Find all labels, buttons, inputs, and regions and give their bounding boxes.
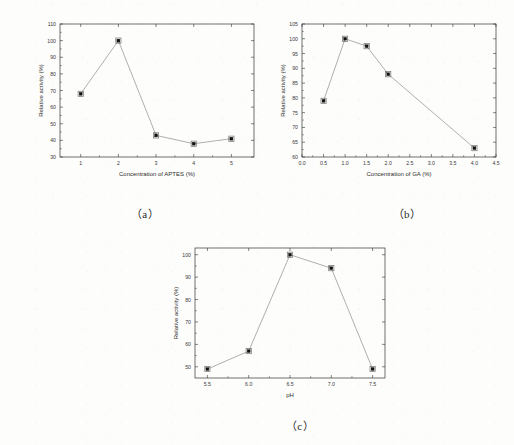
- data-point: [387, 73, 390, 76]
- y-axis-title: Relative activity (%): [280, 64, 286, 117]
- data-point: [330, 267, 333, 270]
- y-tick-label: 50: [185, 364, 191, 370]
- data-point: [230, 137, 233, 140]
- x-tick-label: 6.0: [245, 381, 252, 387]
- y-tick-label: 95: [292, 51, 298, 57]
- x-axis-title: Concentration of APTES (%): [119, 171, 195, 177]
- caption-c: （c）: [245, 417, 355, 433]
- y-tick-label: 80: [292, 95, 298, 101]
- plot-frame: [302, 24, 496, 157]
- y-tick-label: 100: [182, 252, 191, 258]
- y-tick-label: 60: [292, 154, 298, 160]
- y-axis-title: Relative activity (%): [38, 64, 44, 117]
- x-tick-label: 2.0: [385, 160, 392, 166]
- x-tick-label: 0.5: [320, 160, 327, 166]
- y-tick-label: 50: [50, 121, 56, 127]
- data-line: [81, 41, 232, 144]
- data-point: [117, 39, 120, 42]
- x-tick-label: 4.5: [492, 160, 499, 166]
- y-tick-label: 90: [185, 274, 191, 280]
- y-tick-label: 70: [185, 319, 191, 325]
- y-tick-label: 90: [50, 54, 56, 60]
- data-point: [289, 253, 292, 256]
- data-point: [155, 134, 158, 137]
- y-tick-label: 60: [50, 104, 56, 110]
- y-tick-label: 65: [292, 139, 298, 145]
- x-tick-label: 1.5: [363, 160, 370, 166]
- y-tick-label: 110: [48, 21, 56, 27]
- y-tick-label: 70: [292, 124, 298, 130]
- data-point: [192, 142, 195, 145]
- x-tick-label: 2.5: [406, 160, 413, 166]
- x-axis-title: Concentration of GA (%): [366, 171, 431, 177]
- x-tick-label: 5: [230, 160, 233, 166]
- y-tick-label: 80: [185, 297, 191, 303]
- x-tick-label: 7.5: [369, 381, 376, 387]
- y-tick-label: 40: [50, 137, 56, 143]
- chart-b-svg: 60657075808590951001050.00.51.01.52.02.5…: [262, 14, 506, 194]
- plot-area-b: 60657075808590951001050.00.51.01.52.02.5…: [262, 14, 506, 194]
- y-tick-label: 80: [50, 71, 56, 77]
- chart-panel-c: 50607080901005.56.06.57.07.5pHRelative a…: [155, 238, 399, 413]
- x-tick-label: 6.5: [286, 381, 293, 387]
- y-tick-label: 60: [185, 341, 191, 347]
- chart-panel-a: 3040506070809010011012345Concentration o…: [26, 14, 266, 194]
- data-point: [206, 368, 209, 371]
- data-line: [207, 255, 372, 369]
- x-tick-label: 3.5: [449, 160, 456, 166]
- y-tick-label: 105: [289, 21, 298, 27]
- y-tick-label: 100: [289, 36, 298, 42]
- plot-frame: [60, 24, 254, 157]
- y-tick-label: 100: [47, 38, 56, 44]
- plot-area-a: 3040506070809010011012345Concentration o…: [26, 14, 266, 194]
- x-tick-label: 1: [79, 160, 82, 166]
- x-tick-label: 2: [117, 160, 120, 166]
- caption-b: （b）: [352, 205, 462, 221]
- x-axis-title: pH: [286, 392, 294, 398]
- data-point: [322, 99, 325, 102]
- y-tick-label: 30: [50, 154, 56, 160]
- data-point: [473, 147, 476, 150]
- data-point: [371, 368, 374, 371]
- y-tick-label: 90: [292, 65, 298, 71]
- caption-a: （a）: [90, 205, 200, 221]
- x-tick-label: 3: [155, 160, 158, 166]
- figure-page: 3040506070809010011012345Concentration o…: [0, 0, 514, 445]
- plot-frame: [195, 248, 385, 378]
- y-tick-label: 75: [292, 110, 298, 116]
- data-point: [365, 45, 368, 48]
- y-tick-label: 70: [50, 88, 56, 94]
- data-point: [344, 37, 347, 40]
- x-tick-label: 4: [192, 160, 195, 166]
- x-tick-label: 0.0: [298, 160, 305, 166]
- y-tick-label: 85: [292, 80, 298, 86]
- x-tick-label: 5.5: [204, 381, 211, 387]
- x-tick-label: 4.0: [471, 160, 478, 166]
- x-tick-label: 3.0: [428, 160, 435, 166]
- data-line: [324, 39, 475, 148]
- chart-c-svg: 50607080901005.56.06.57.07.5pHRelative a…: [155, 238, 399, 413]
- x-tick-label: 1.0: [342, 160, 349, 166]
- chart-panel-b: 60657075808590951001050.00.51.01.52.02.5…: [262, 14, 506, 194]
- y-axis-title: Relative activity (%): [173, 287, 179, 340]
- x-tick-label: 7.0: [328, 381, 335, 387]
- data-point: [79, 92, 82, 95]
- plot-area-c: 50607080901005.56.06.57.07.5pHRelative a…: [155, 238, 399, 413]
- chart-a-svg: 3040506070809010011012345Concentration o…: [26, 14, 266, 194]
- data-point: [247, 350, 250, 353]
